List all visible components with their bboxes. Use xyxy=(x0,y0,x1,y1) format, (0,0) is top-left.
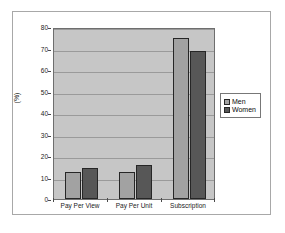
bar-men-subscription xyxy=(173,38,189,199)
legend-label: Women xyxy=(232,106,256,113)
bar-women-subscription xyxy=(190,51,206,199)
legend-swatch-icon xyxy=(224,107,230,113)
bar-group xyxy=(173,29,206,199)
y-tick-label: 10 xyxy=(41,175,48,182)
legend-label: Men xyxy=(232,98,246,105)
plot-area xyxy=(53,28,215,200)
y-tick-label: 30 xyxy=(41,132,48,139)
legend-item-women: Women xyxy=(224,106,256,113)
x-tick-mark xyxy=(53,198,54,202)
y-tick-mark xyxy=(48,179,51,180)
y-axis: 01020304050607080 xyxy=(25,28,51,200)
bar-group xyxy=(65,29,98,199)
x-tick-mark xyxy=(214,198,215,202)
bar-men-pay-per-unit xyxy=(119,172,135,199)
y-tick-mark xyxy=(48,200,51,201)
x-tick-label: Subscription xyxy=(170,202,206,209)
y-tick-label: 60 xyxy=(41,68,48,75)
x-tick-label: Pay Per Unit xyxy=(116,202,153,209)
chart-frame: (%) 01020304050607080 Pay Per ViewPay Pe… xyxy=(12,11,271,215)
y-tick-mark xyxy=(48,28,51,29)
y-tick-label: 50 xyxy=(41,89,48,96)
bar-women-pay-per-view xyxy=(82,168,98,199)
y-tick-mark xyxy=(48,71,51,72)
bars-layer xyxy=(54,29,214,199)
bar-women-pay-per-unit xyxy=(136,165,152,199)
y-tick-mark xyxy=(48,93,51,94)
x-tick-mark xyxy=(107,198,108,202)
bar-group xyxy=(119,29,152,199)
legend-item-men: Men xyxy=(224,98,256,105)
chart-legend: MenWomen xyxy=(220,93,261,118)
y-tick-mark xyxy=(48,136,51,137)
y-tick-mark xyxy=(48,157,51,158)
y-tick-label: 80 xyxy=(41,25,48,32)
y-tick-mark xyxy=(48,50,51,51)
x-tick-mark xyxy=(161,198,162,202)
legend-swatch-icon xyxy=(224,99,230,105)
y-tick-label: 70 xyxy=(41,46,48,53)
y-tick-label: 20 xyxy=(41,154,48,161)
y-tick-mark xyxy=(48,114,51,115)
bar-men-pay-per-view xyxy=(65,172,81,199)
x-tick-label: Pay Per View xyxy=(61,202,100,209)
x-axis: Pay Per ViewPay Per UnitSubscription xyxy=(53,202,215,216)
y-tick-label: 40 xyxy=(41,111,48,118)
y-axis-title: (%) xyxy=(13,93,20,104)
